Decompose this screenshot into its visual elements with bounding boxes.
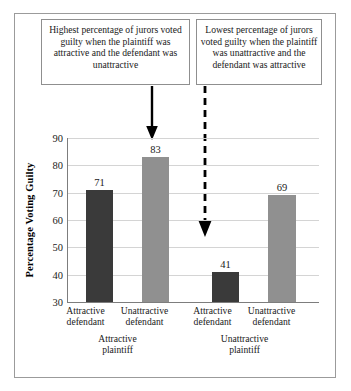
x-group-line1: Attractive [60,333,175,344]
x-category-label-4: Unattractive defendant [240,305,303,327]
x-category-label-3: Attractive defendant [183,305,242,327]
bar-unattractive-defendant-unattractive-plaintiff: 69 [268,195,296,302]
x-group-label-unattractive-plaintiff: Unattractive plaintiff [187,333,302,355]
bar-value-label: 71 [94,177,105,188]
x-category-label-2: Unattractive defendant [113,305,176,327]
annotation-arrow-solid [144,86,160,142]
gridline-80 [68,165,319,166]
y-axis-title: Percentage Voting Guilty [22,138,38,302]
bar-unattractive-defendant-attractive-plaintiff: 83 [142,157,169,302]
plot-area: 30 40 50 60 70 80 90 71 83 41 69 [68,138,319,302]
x-category-line2: defendant [240,316,303,327]
y-tick-50: 50 [53,242,64,253]
x-category-line1: Attractive [56,305,115,316]
x-category-line2: defendant [183,316,242,327]
x-axis-line [67,302,319,303]
x-category-line1: Unattractive [113,305,176,316]
y-tick-90: 90 [53,133,64,144]
gridline-90 [68,138,319,139]
x-category-label-1: Attractive defendant [56,305,115,327]
bar-value-label: 83 [150,144,161,155]
x-category-line2: defendant [113,316,176,327]
y-tick-70: 70 [53,187,64,198]
bar-value-label: 69 [277,182,288,193]
x-category-line2: defendant [56,316,115,327]
x-group-line2: plaintiff [187,344,302,355]
y-tick-80: 80 [53,160,64,171]
x-group-line1: Unattractive [187,333,302,344]
bar-attractive-defendant-attractive-plaintiff: 71 [86,190,113,302]
x-group-label-attractive-plaintiff: Attractive plaintiff [60,333,175,355]
bar-value-label: 41 [220,259,231,270]
x-group-line2: plaintiff [60,344,175,355]
x-category-line1: Attractive [183,305,242,316]
annotation-box-highest: Highest percentage of jurors voted guilt… [41,19,190,85]
bar-attractive-defendant-unattractive-plaintiff: 41 [212,272,239,302]
y-tick-40: 40 [53,269,64,280]
x-category-line1: Unattractive [240,305,303,316]
y-tick-60: 60 [53,215,64,226]
annotation-box-lowest: Lowest percentage of jurors voted guilty… [196,19,322,85]
chart-figure: Highest percentage of jurors voted guilt… [0,0,351,391]
